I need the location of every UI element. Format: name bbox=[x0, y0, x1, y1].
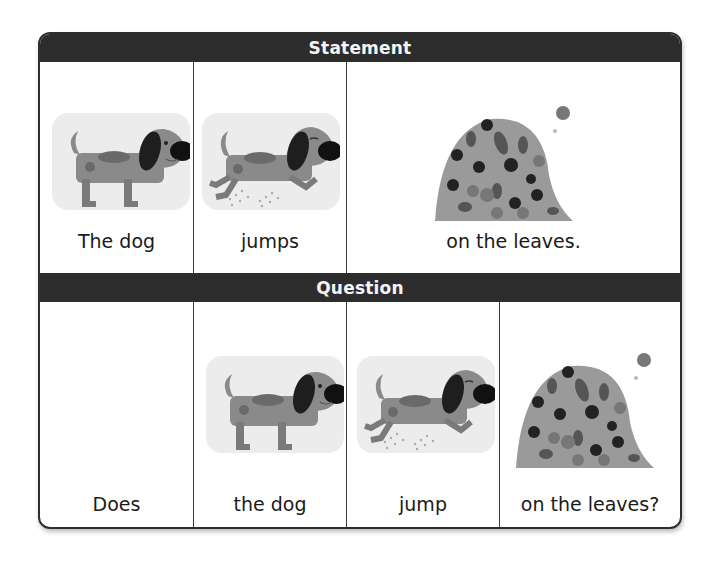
question-cell-subject: the dog bbox=[194, 302, 347, 527]
statement-row: The dog jumps on the leaves. bbox=[40, 62, 680, 273]
question-label-auxiliary: Does bbox=[40, 493, 193, 515]
dog-jumping-image bbox=[357, 356, 495, 453]
statement-label-verb: jumps bbox=[194, 230, 346, 252]
leaf-pile-image bbox=[508, 342, 658, 472]
leaf-pile-image bbox=[427, 95, 577, 225]
statement-cell-verb: jumps bbox=[194, 62, 347, 273]
sentence-table: Statement The dog jumps on the leaves. Q… bbox=[38, 32, 682, 529]
statement-cell-location: on the leaves. bbox=[347, 62, 680, 273]
question-row: Does the dog jump on the leaves? bbox=[40, 302, 680, 527]
question-label-location: on the leaves? bbox=[500, 493, 680, 515]
question-cell-location: on the leaves? bbox=[500, 302, 680, 527]
question-label-subject: the dog bbox=[194, 493, 346, 515]
question-cell-auxiliary: Does bbox=[40, 302, 194, 527]
statement-label-subject: The dog bbox=[40, 230, 193, 252]
question-label-verb: jump bbox=[347, 493, 499, 515]
statement-label-location: on the leaves. bbox=[347, 230, 680, 252]
question-header: Question bbox=[40, 273, 680, 302]
dog-standing-image bbox=[206, 356, 344, 453]
statement-cell-subject: The dog bbox=[40, 62, 194, 273]
dog-standing-image bbox=[52, 113, 190, 210]
dog-jumping-image bbox=[202, 113, 340, 210]
statement-header: Statement bbox=[40, 34, 680, 62]
question-cell-verb: jump bbox=[347, 302, 500, 527]
